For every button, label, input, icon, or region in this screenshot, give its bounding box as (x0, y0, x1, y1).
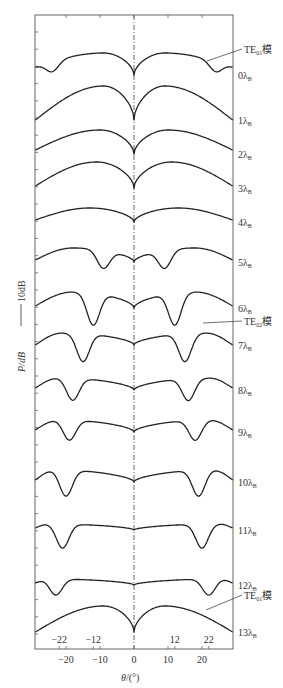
ylabel-text: P/dB (16, 352, 27, 373)
curve-label: 9λB (238, 427, 252, 439)
inner-marker-label: −22 (51, 634, 67, 645)
x-tick-label: −10 (92, 654, 108, 665)
inner-marker-label: 12 (170, 634, 180, 645)
curve-label: 6λB (238, 303, 252, 315)
curve-label: 3λB (238, 183, 252, 195)
x-tick-label: 20 (197, 654, 207, 665)
curve-label: 0λB (238, 70, 252, 82)
y-axis-label: P/dB (16, 352, 27, 373)
annotation-leader (207, 49, 242, 61)
curve-label: 11λB (238, 525, 257, 537)
curve-label: 8λB (238, 385, 252, 397)
inner-marker-label: 22 (204, 634, 214, 645)
mode-annotation: TE01模 (244, 590, 272, 602)
mode-annotation: TE02模 (244, 316, 272, 328)
curve-label: 1λB (238, 115, 252, 127)
curve-label: 5λB (238, 257, 252, 269)
x-tick-label: −20 (58, 654, 74, 665)
curve-label: 4λB (238, 217, 252, 229)
annotation-leader (206, 595, 242, 610)
scale-bar: 10dB (16, 280, 27, 326)
x-axis-unit: /(°) (126, 672, 139, 684)
mode-annotation: TE01模 (244, 44, 272, 56)
annotation-leader (203, 321, 242, 323)
radiation-pattern-chart: 0λB1λB2λB3λB4λB5λB6λB7λB8λB9λB10λB11λB12… (0, 0, 283, 688)
x-axis-title: θ/(°) (121, 672, 139, 684)
curve-label: 13λB (238, 627, 257, 639)
curve-label: 2λB (238, 149, 252, 161)
x-tick-label: 0 (132, 654, 137, 665)
curve-label: 7λB (238, 340, 252, 352)
inner-marker-label: −12 (85, 634, 101, 645)
x-axis-labels: −20−1001020−22−121222 (51, 634, 213, 665)
curve-label: 10λB (238, 477, 257, 489)
x-tick-label: 10 (163, 654, 173, 665)
axis-ticks (35, 15, 202, 649)
curve-labels: 0λB1λB2λB3λB4λB5λB6λB7λB8λB9λB10λB11λB12… (238, 70, 257, 639)
scale-bar-text: 10dB (16, 280, 27, 302)
